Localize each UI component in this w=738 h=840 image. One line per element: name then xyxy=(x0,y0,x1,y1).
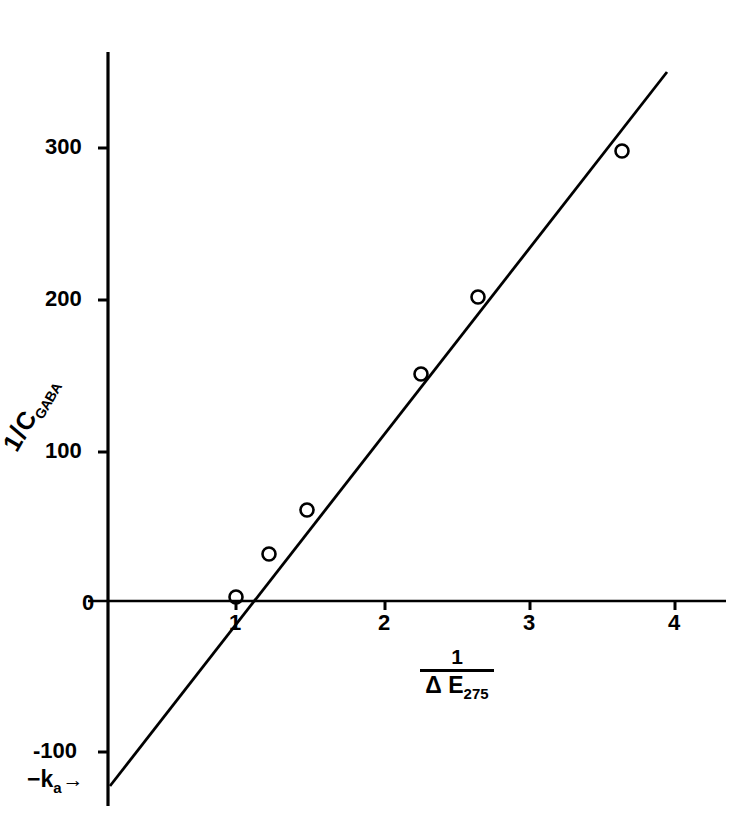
y-tick-label-200: 200 xyxy=(45,288,82,310)
data-point xyxy=(263,548,276,561)
x-axis-title-numerator: 1 xyxy=(420,646,494,668)
x-axis-title-denominator-symbol: Δ E xyxy=(425,672,463,698)
ka-annotation-subscript: a xyxy=(53,779,61,796)
y-axis-title: 1/CGABA xyxy=(8,352,98,482)
data-point xyxy=(415,368,428,381)
ka-annotation: −ka→ xyxy=(27,768,84,795)
x-tick-label-1: 1 xyxy=(229,612,241,634)
x-axis-title: 1 Δ E275 xyxy=(420,646,494,701)
data-points xyxy=(230,145,629,604)
data-point xyxy=(472,291,485,304)
data-point xyxy=(616,145,629,158)
y-tick-label-0: 0 xyxy=(82,592,94,614)
ka-annotation-label: −k xyxy=(27,766,53,792)
fit-line xyxy=(110,72,667,786)
x-tick-label-2: 2 xyxy=(378,612,390,634)
x-axis-title-denominator: Δ E275 xyxy=(420,674,494,701)
x-tick-label-4: 4 xyxy=(668,612,680,634)
arrow-right-icon: → xyxy=(62,768,84,791)
plot-canvas xyxy=(0,0,738,840)
data-point xyxy=(301,504,314,517)
y-tick-label-minus-100: -100 xyxy=(33,740,77,762)
figure-panel: 300 200 100 0 -100 1 2 3 4 1/CGABA 1 Δ E… xyxy=(0,0,738,840)
x-axis-ticks xyxy=(236,601,675,610)
y-tick-label-300: 300 xyxy=(45,136,82,158)
x-axis-title-denominator-subscript: 275 xyxy=(464,685,489,702)
y-axis-title-subscript: GABA xyxy=(31,380,64,422)
x-tick-label-3: 3 xyxy=(523,612,535,634)
